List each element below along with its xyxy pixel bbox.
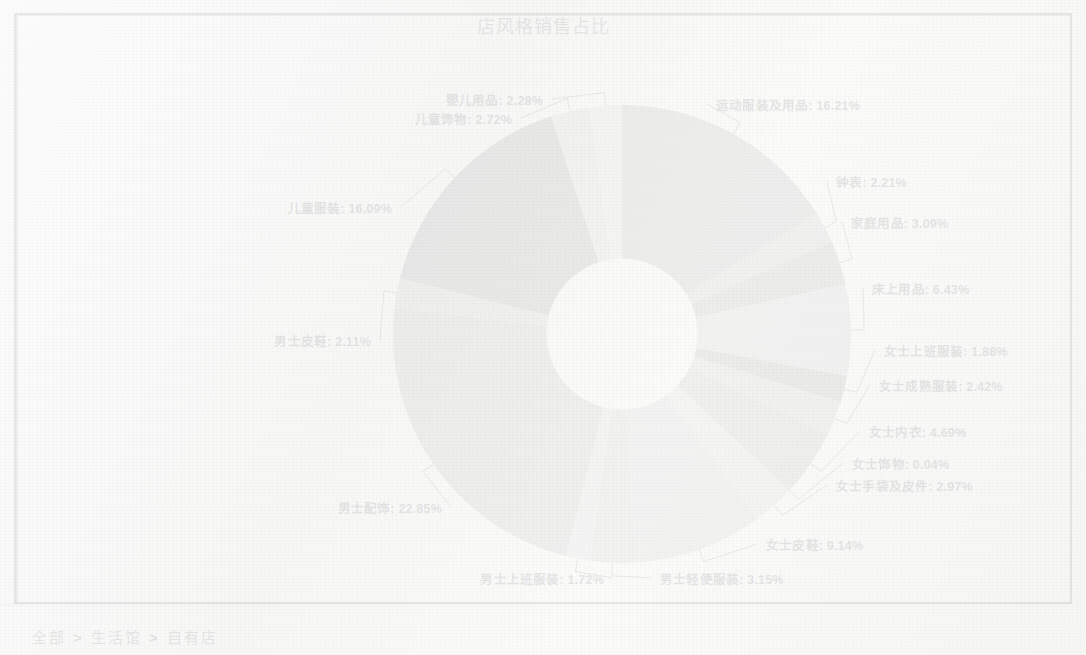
pie-label-leader-line	[825, 181, 837, 228]
breadcrumb-item-2[interactable]: 自有店	[167, 626, 218, 647]
pie-slice-label: 男士轻便服装: 3.15%	[660, 569, 784, 588]
pie-label-leader-line	[552, 93, 606, 106]
pie-slice-label: 女士手袋及皮件: 2.97%	[836, 476, 973, 495]
pie-label-leader-line	[699, 544, 757, 562]
pie-slice-label: 女士饰物: 0.04%	[852, 454, 949, 473]
pie-chart-svg	[0, 0, 1086, 655]
pie-label-leader-line	[612, 563, 651, 578]
pie-slice-label: 女士皮鞋: 9.14%	[766, 535, 863, 554]
pie-slice-label: 婴儿用品: 2.28%	[446, 90, 543, 109]
pie-slice-label: 男士上班服装: 1.72%	[480, 569, 604, 588]
breadcrumb-item-1[interactable]: 生活馆	[91, 626, 142, 647]
pie-slice-label: 儿童服装: 16.09%	[288, 198, 392, 217]
pie-slice-label: 女士成熟服装: 2.42%	[879, 376, 1003, 395]
pie-slice-label: 家庭用品: 3.09%	[851, 213, 948, 232]
pie-chart	[0, 0, 1086, 655]
pie-slice-label: 男士皮鞋: 2.11%	[274, 331, 371, 350]
pie-slice-label: 钟表: 2.21%	[836, 172, 907, 191]
breadcrumb: 全部>生活馆>自有店	[32, 626, 218, 647]
breadcrumb-item-0[interactable]: 全部	[32, 626, 66, 647]
breadcrumb-separator: >	[73, 629, 84, 646]
pie-slice-label: 儿童饰物: 2.72%	[415, 109, 512, 128]
pie-slice-label: 女士上班服装: 1.88%	[884, 341, 1008, 360]
pie-label-leader-line	[851, 288, 864, 330]
pie-slice-label: 女士内衣: 4.69%	[869, 422, 966, 441]
breadcrumb-separator: >	[149, 629, 160, 646]
pie-slice-label: 床上用品: 6.43%	[872, 279, 969, 298]
pie-slice-label: 男士配饰: 22.85%	[338, 498, 442, 517]
pie-slice[interactable]	[393, 308, 603, 556]
pie-slice-label: 运动服装及用品: 16.21%	[716, 95, 860, 114]
